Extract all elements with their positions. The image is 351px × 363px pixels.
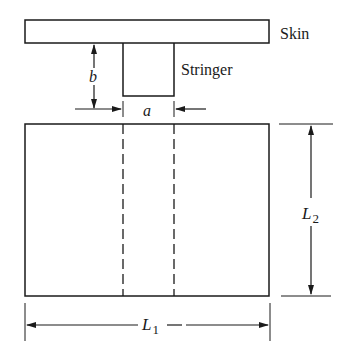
- skin-cross-section: [25, 20, 269, 43]
- dimension-b: b: [89, 45, 97, 108]
- dimension-l1-label: L1: [141, 315, 159, 337]
- dimension-l1: L1: [25, 303, 270, 341]
- dimension-a: a: [75, 101, 206, 119]
- skin-stringer-diagram: Skin Stringer b a L2 L1: [0, 0, 351, 363]
- stringer-label: Stringer: [181, 61, 233, 79]
- dimension-l2: L2: [279, 124, 333, 296]
- skin-label: Skin: [280, 25, 309, 42]
- dimension-b-label: b: [89, 68, 97, 85]
- dimension-a-label: a: [143, 102, 151, 119]
- stringer-cross-section: [123, 43, 174, 96]
- plate-plan-view: [25, 124, 269, 296]
- dimension-l2-label: L2: [301, 204, 319, 226]
